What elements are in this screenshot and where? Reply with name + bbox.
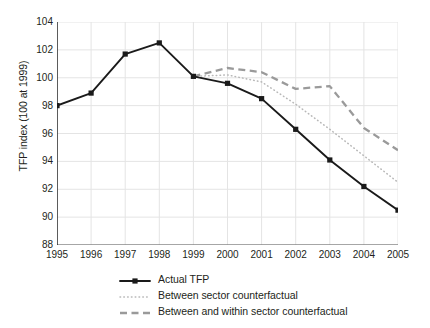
- legend-label: Between and within sector counterfactual: [158, 305, 347, 317]
- data-point-marker: [327, 157, 332, 162]
- y-axis-tick-labels: 889092949698100102104: [27, 0, 53, 250]
- y-tick-label: 100: [31, 73, 53, 83]
- legend-label: Between sector counterfactual: [158, 289, 298, 301]
- data-point-marker: [191, 74, 196, 79]
- y-tick-label: 98: [31, 101, 53, 111]
- legend-key-icon: [118, 273, 152, 285]
- legend-item: Between sector counterfactual: [118, 287, 418, 303]
- data-point-marker: [57, 103, 60, 108]
- chart-figure: TFP index (100 at 1999) 8890929496981001…: [0, 0, 430, 328]
- chart-legend: Actual TFPBetween sector counterfactualB…: [118, 271, 418, 319]
- plot-area: [57, 22, 398, 245]
- data-point-marker: [259, 96, 264, 101]
- data-point-marker: [157, 40, 162, 45]
- data-point-marker: [225, 81, 230, 86]
- data-point-marker: [293, 127, 298, 132]
- data-point-marker: [89, 90, 94, 95]
- legend-item: Actual TFP: [118, 271, 418, 287]
- legend-item: Between and within sector counterfactual: [118, 303, 418, 319]
- data-point-marker: [395, 208, 398, 213]
- chart-canvas: [57, 22, 398, 245]
- y-tick-label: 92: [31, 184, 53, 194]
- x-tick-label: 2005: [378, 249, 418, 260]
- legend-marker: [132, 278, 137, 283]
- y-tick-label: 104: [31, 17, 53, 27]
- y-tick-label: 90: [31, 212, 53, 222]
- data-point-marker: [361, 184, 366, 189]
- legend-label: Actual TFP: [158, 273, 209, 285]
- y-tick-label: 94: [31, 156, 53, 166]
- y-tick-label: 96: [31, 129, 53, 139]
- legend-key-icon: [118, 289, 152, 301]
- x-axis-tick-labels: 1995199619971998199920002001200220032004…: [57, 249, 417, 265]
- data-point-marker: [123, 51, 128, 56]
- legend-key-icon: [118, 305, 152, 317]
- y-tick-label: 102: [31, 45, 53, 55]
